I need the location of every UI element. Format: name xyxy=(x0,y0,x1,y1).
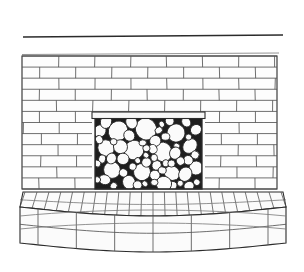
hearth-face-label: hearth front face xyxy=(70,15,92,19)
firebox-label: firebox opening xyxy=(2,15,23,19)
hearth-top-label: hearth top, radiating brick xyxy=(70,10,104,14)
hearth xyxy=(20,192,286,252)
lintel-label: lintel xyxy=(2,25,9,29)
curvature-label: convex toward viewer xyxy=(180,10,209,14)
firebox xyxy=(92,112,205,193)
bond-label: running bond xyxy=(70,25,88,29)
medium-label: line drawing xyxy=(180,5,196,9)
wall-label: brick chimney breast xyxy=(2,10,30,14)
ceiling-line-label: ceiling line xyxy=(70,20,84,24)
hearth-label: raised curved hearth xyxy=(70,5,98,9)
fireplace-drawing: Brick fireplace with cobblestone firebox… xyxy=(0,0,304,272)
fireplace-illustration: Brick fireplace with cobblestone firebox… xyxy=(0,0,304,272)
firebox-contents-label: river cobbles xyxy=(2,20,20,24)
firebox-lintel xyxy=(92,112,205,119)
